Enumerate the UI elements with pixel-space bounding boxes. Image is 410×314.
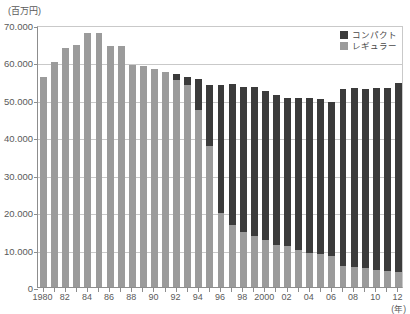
y-axis-tick-label: 70.000 — [4, 21, 33, 32]
x-axis-tick-label: 86 — [104, 292, 114, 302]
bar-segment-regular — [73, 45, 80, 287]
x-axis-tick-label: 88 — [126, 292, 136, 302]
bar-segment-regular — [373, 270, 380, 287]
bar-segment-compact — [173, 74, 180, 80]
bar-group[interactable] — [162, 25, 169, 287]
bar-group[interactable] — [151, 25, 158, 287]
bar-segment-regular — [62, 48, 69, 287]
y-axis-tick-mark — [34, 214, 38, 215]
bar-group[interactable] — [340, 25, 347, 287]
legend-label-regular: レギュラー — [352, 42, 397, 51]
bar-group[interactable] — [195, 25, 202, 287]
legend-item-regular[interactable]: レギュラー — [340, 42, 397, 51]
x-axis-unit-label: (年) — [391, 302, 406, 314]
bar-segment-regular — [306, 253, 313, 287]
bar-segment-compact — [262, 91, 269, 240]
y-axis-tick-label: 20.000 — [4, 208, 33, 219]
bar-group[interactable] — [373, 25, 380, 287]
plot-area — [37, 26, 403, 288]
bar-group[interactable] — [129, 25, 136, 287]
bar-group[interactable] — [395, 25, 402, 287]
x-axis-tick-label: 04 — [304, 292, 314, 302]
bar-segment-regular — [395, 272, 402, 287]
bar-segment-regular — [151, 69, 158, 287]
bar-group[interactable] — [251, 25, 258, 287]
bar-group[interactable] — [118, 25, 125, 287]
bar-group[interactable] — [362, 25, 369, 287]
legend-swatch-compact — [340, 31, 348, 39]
x-axis-tick-label: 06 — [326, 292, 336, 302]
bar-segment-regular — [206, 146, 213, 287]
bar-group[interactable] — [229, 25, 236, 287]
bar-group[interactable] — [40, 25, 47, 287]
x-axis-tick-label: 92 — [171, 292, 181, 302]
bar-group[interactable] — [107, 25, 114, 287]
bar-segment-compact — [184, 77, 191, 85]
bar-segment-compact — [306, 98, 313, 253]
y-axis-tick-label: 40.000 — [4, 133, 33, 144]
y-axis-tick-label: 50.000 — [4, 95, 33, 106]
bar-group[interactable] — [306, 25, 313, 287]
bar-segment-regular — [384, 271, 391, 287]
bar-group[interactable] — [328, 25, 335, 287]
bar-segment-regular — [295, 250, 302, 287]
bar-segment-compact — [328, 102, 335, 255]
bar-segment-regular — [51, 62, 58, 287]
bar-group[interactable] — [218, 25, 225, 287]
bar-group[interactable] — [184, 25, 191, 287]
bar-segment-compact — [206, 85, 213, 146]
x-axis-tick-label: 10 — [370, 292, 380, 302]
bar-segment-compact — [384, 88, 391, 271]
bar-group[interactable] — [206, 25, 213, 287]
bar-segment-compact — [362, 89, 369, 268]
legend-item-compact[interactable]: コンパクト — [340, 31, 397, 40]
bar-segment-regular — [328, 256, 335, 287]
bar-segment-regular — [195, 110, 202, 287]
y-axis-tick-label: 30.000 — [4, 170, 33, 181]
bar-segment-regular — [229, 225, 236, 287]
bar-group[interactable] — [317, 25, 324, 287]
bar-segment-compact — [240, 87, 247, 233]
bar-segment-compact — [295, 98, 302, 250]
bar-segment-regular — [140, 66, 147, 287]
bar-segment-compact — [317, 99, 324, 255]
bar-group[interactable] — [96, 25, 103, 287]
bar-group[interactable] — [51, 25, 58, 287]
y-axis-tick-mark — [34, 102, 38, 103]
bar-segment-compact — [273, 95, 280, 245]
legend-label-compact: コンパクト — [352, 31, 397, 40]
x-axis-tick-label: 2000 — [254, 292, 274, 302]
x-axis-tick-label: 96 — [215, 292, 225, 302]
bar-group[interactable] — [73, 25, 80, 287]
legend-swatch-regular — [340, 42, 348, 50]
bar-group[interactable] — [62, 25, 69, 287]
bar-group[interactable] — [384, 25, 391, 287]
bar-group[interactable] — [273, 25, 280, 287]
x-axis-tick-label: 90 — [148, 292, 158, 302]
x-axis-tick-label: 1980 — [33, 292, 53, 302]
bar-segment-regular — [351, 267, 358, 287]
bar-group[interactable] — [295, 25, 302, 287]
bar-segment-regular — [96, 33, 103, 287]
bar-segment-compact — [284, 98, 291, 246]
y-axis-tick-labels: 010.00020.00030.00040.00050.00060.00070.… — [0, 0, 33, 313]
bar-group[interactable] — [140, 25, 147, 287]
bar-segment-regular — [273, 245, 280, 287]
bar-segment-regular — [40, 77, 47, 287]
bar-group[interactable] — [284, 25, 291, 287]
x-axis-tick-label: 94 — [193, 292, 203, 302]
y-axis-tick-mark — [34, 27, 38, 28]
bar-segment-regular — [340, 266, 347, 287]
bar-group[interactable] — [240, 25, 247, 287]
y-axis-tick-mark — [34, 177, 38, 178]
bar-group[interactable] — [84, 25, 91, 287]
bar-group[interactable] — [173, 25, 180, 287]
bar-segment-regular — [251, 236, 258, 287]
bar-group[interactable] — [351, 25, 358, 287]
bar-segment-regular — [107, 46, 114, 287]
bars-layer — [38, 27, 402, 287]
bar-segment-regular — [184, 85, 191, 287]
bar-group[interactable] — [262, 25, 269, 287]
bar-segment-regular — [262, 240, 269, 287]
x-axis-tick-labels: 19808284868890929496982000020406081012 — [0, 292, 410, 306]
